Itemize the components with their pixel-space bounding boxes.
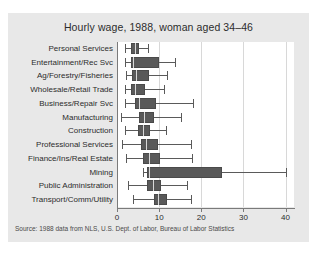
box-iqr	[138, 125, 150, 136]
category-label: Transport/Comm/Utility	[8, 195, 113, 205]
median-line	[133, 57, 134, 68]
whisker-cap-high	[192, 154, 193, 163]
box-iqr	[131, 84, 144, 95]
category-label: Entertainment/Rec Svc	[8, 58, 113, 68]
whisker-cap-high	[193, 99, 194, 108]
source-note: Source: 1988 data from NLS, U.S. Dept. o…	[15, 225, 234, 232]
boxplot-row	[117, 138, 294, 152]
median-line	[139, 98, 140, 109]
category-label: Business/Repair Svc	[8, 99, 113, 109]
category-label: Professional Services	[8, 140, 113, 150]
boxplot-row	[117, 69, 294, 83]
median-line	[153, 180, 154, 191]
box-iqr	[141, 139, 159, 150]
whisker-cap-low	[133, 195, 134, 204]
whisker-cap-high	[148, 44, 149, 53]
whisker-cap-high	[164, 85, 165, 94]
box-iqr	[147, 167, 222, 178]
category-label: Finance/Ins/Real Estate	[8, 154, 113, 164]
whisker-cap-high	[187, 181, 188, 190]
boxplot-row	[117, 193, 294, 207]
median-line	[149, 167, 150, 178]
x-tick-mark-40	[286, 208, 287, 212]
box-iqr	[154, 194, 167, 205]
x-tick-mark-10	[159, 208, 160, 212]
category-label: Public Administration	[8, 181, 113, 191]
boxplot-row	[117, 124, 294, 138]
whisker-cap-low	[126, 154, 127, 163]
whisker-cap-high	[181, 113, 182, 122]
whisker-cap-low	[125, 99, 126, 108]
median-line	[143, 125, 144, 136]
whisker-cap-low	[125, 58, 126, 67]
median-line	[135, 43, 136, 54]
whisker-cap-low	[126, 71, 127, 80]
whisker-cap-high	[191, 195, 192, 204]
whisker-cap-high	[191, 140, 192, 149]
whisker-cap-low	[122, 140, 123, 149]
category-label: Personal Services	[8, 44, 113, 54]
median-line	[136, 70, 137, 81]
category-label: Wholesale/Retail Trade	[8, 85, 113, 95]
chart-title: Hourly wage, 1988, woman aged 34–46	[8, 21, 309, 33]
box-iqr	[143, 153, 160, 164]
box-iqr	[147, 180, 161, 191]
median-line	[158, 194, 159, 205]
chart-figure: Hourly wage, 1988, woman aged 34–46 Pers…	[8, 13, 309, 242]
boxplot-row	[117, 166, 294, 180]
x-axis-line	[117, 208, 295, 209]
boxplot-row	[117, 111, 294, 125]
box-iqr	[131, 57, 159, 68]
boxplot-row	[117, 83, 294, 97]
whisker-cap-high	[166, 126, 167, 135]
x-tick-label-20: 20	[197, 213, 206, 222]
x-tick-mark-0	[117, 208, 118, 212]
median-line	[135, 84, 136, 95]
whisker-cap-low	[143, 168, 144, 177]
x-tick-mark-20	[201, 208, 202, 212]
x-tick-mark-30	[243, 208, 244, 212]
plot-area	[117, 42, 294, 207]
category-label: Manufacturing	[8, 113, 113, 123]
x-tick-label-30: 30	[239, 213, 248, 222]
boxplot-row	[117, 56, 294, 70]
boxplot-row	[117, 97, 294, 111]
boxplot-row	[117, 152, 294, 166]
whisker-cap-high	[175, 58, 176, 67]
boxplot-row	[117, 179, 294, 193]
category-label: Mining	[8, 168, 113, 178]
whisker-cap-high	[167, 71, 168, 80]
whisker-cap-low	[121, 113, 122, 122]
x-tick-label-10: 10	[155, 213, 164, 222]
whisker-cap-low	[125, 126, 126, 135]
category-label: Ag/Forestry/Fisheries	[8, 71, 113, 81]
y-axis-line	[117, 42, 118, 208]
whisker-cap-low	[125, 44, 126, 53]
x-tick-label-40: 40	[281, 213, 290, 222]
whisker-cap-low	[128, 181, 129, 190]
whisker-cap-low	[125, 85, 126, 94]
median-line	[144, 112, 145, 123]
median-line	[146, 139, 147, 150]
box-iqr	[139, 112, 154, 123]
category-label: Construction	[8, 126, 113, 136]
category-axis-labels: Personal ServicesEntertainment/Rec SvcAg…	[8, 42, 113, 207]
median-line	[149, 153, 150, 164]
boxplot-row	[117, 42, 294, 56]
x-tick-label-0: 0	[115, 213, 119, 222]
whisker-cap-high	[286, 168, 287, 177]
